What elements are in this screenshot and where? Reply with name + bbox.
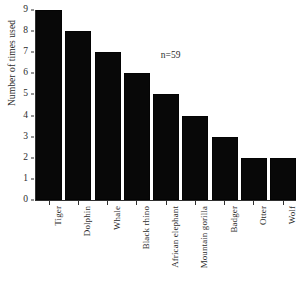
x-tick-mark xyxy=(107,201,108,205)
y-tick-label: 1 xyxy=(23,174,28,184)
y-tick-mark xyxy=(31,157,34,158)
bar xyxy=(270,158,296,200)
x-label-slot: Dolphin xyxy=(65,206,91,290)
x-tick-mark xyxy=(136,201,137,205)
x-tick-mark xyxy=(49,201,50,205)
plot-area xyxy=(36,10,296,200)
bar-slot xyxy=(65,10,91,200)
y-tick-label: 3 xyxy=(23,132,28,142)
y-tick-mark xyxy=(31,10,34,11)
x-label-slot: Wolf xyxy=(270,206,296,290)
y-tick-label: 2 xyxy=(23,153,28,163)
y-tick-label: 9 xyxy=(23,5,28,15)
bar-slot xyxy=(153,10,179,200)
bar-slot xyxy=(270,10,296,200)
x-tick-label: Otter xyxy=(258,206,268,225)
x-label-slot: Whale xyxy=(95,206,121,290)
x-label-slot: Tiger xyxy=(36,206,62,290)
y-tick-label: 5 xyxy=(23,90,28,100)
x-tick-label: African elephant xyxy=(170,206,180,268)
x-tick-mark xyxy=(195,201,196,205)
bar-series xyxy=(36,10,296,200)
bar-slot xyxy=(124,10,150,200)
x-tick-mark xyxy=(78,201,79,205)
bar xyxy=(65,31,91,200)
x-tick-mark xyxy=(166,201,167,205)
x-tick-mark xyxy=(253,201,254,205)
x-tick-label: Wolf xyxy=(287,206,297,224)
bar xyxy=(212,137,238,200)
bar xyxy=(182,116,208,200)
bar-slot xyxy=(182,10,208,200)
x-tick-mark xyxy=(283,201,284,205)
bar xyxy=(36,10,62,200)
y-tick-mark xyxy=(31,31,34,32)
x-tick-label: Dolphin xyxy=(82,206,92,236)
y-tick-mark xyxy=(31,94,34,95)
bar xyxy=(153,94,179,200)
bar-slot xyxy=(36,10,62,200)
x-axis-labels: TigerDolphinWhaleBlack rhinoAfrican elep… xyxy=(36,206,296,290)
y-tick-label: 4 xyxy=(23,111,28,121)
y-tick-label: 0 xyxy=(23,195,28,205)
x-tick-label: Whale xyxy=(112,206,122,230)
y-tick-mark xyxy=(31,178,34,179)
bar-slot xyxy=(241,10,267,200)
x-tick-label: Tiger xyxy=(53,206,63,226)
y-tick-mark xyxy=(31,136,34,137)
y-tick-mark xyxy=(31,73,34,74)
x-label-slot: African elephant xyxy=(153,206,179,290)
x-tick-label: Badger xyxy=(229,206,239,233)
y-tick-mark xyxy=(31,200,34,201)
x-tick-label: Black rhino xyxy=(141,206,151,249)
x-label-slot: Badger xyxy=(212,206,238,290)
bar-chart: Number of times used 9876543210 TigerDol… xyxy=(0,0,305,292)
y-tick-label: 6 xyxy=(23,69,28,79)
x-label-slot: Black rhino xyxy=(124,206,150,290)
y-axis-ticks: 9876543210 xyxy=(0,0,36,292)
y-tick-mark xyxy=(31,52,34,53)
x-label-slot: Otter xyxy=(241,206,267,290)
bar xyxy=(241,158,267,200)
x-tick-label: Mountain gorilla xyxy=(199,206,209,268)
bar xyxy=(95,52,121,200)
chart-annotation: n=59 xyxy=(161,50,181,60)
y-tick-mark xyxy=(31,115,34,116)
y-tick-label: 7 xyxy=(23,47,28,57)
y-tick-label: 8 xyxy=(23,26,28,36)
bar xyxy=(124,73,150,200)
x-label-slot: Mountain gorilla xyxy=(182,206,208,290)
x-tick-mark xyxy=(224,201,225,205)
bar-slot xyxy=(95,10,121,200)
bar-slot xyxy=(212,10,238,200)
